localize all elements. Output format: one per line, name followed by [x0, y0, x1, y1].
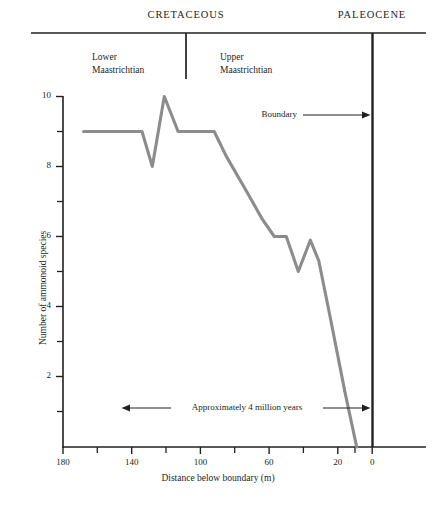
boundary-annotation-label: Boundary: [262, 109, 298, 119]
x-tick-label-100: 100: [194, 457, 208, 467]
stage-label-upper-line1: Upper: [220, 51, 315, 64]
y-tick-label-10: 10: [42, 90, 51, 100]
stage-label-lower-line1: Lower: [92, 51, 187, 64]
duration-annotation-label: Approximately 4 million years: [192, 402, 303, 412]
y-axis-minor-ticks: [57, 132, 63, 412]
x-axis-major-ticks: [63, 447, 372, 454]
y-axis-major-ticks: [56, 97, 63, 377]
x-tick-label-180: 180: [56, 457, 70, 467]
x-axis-minor-ticks: [97, 447, 355, 453]
x-tick-label-60: 60: [265, 457, 274, 467]
stage-label-upper-line2: Maastrichtian: [220, 64, 330, 77]
x-tick-label-140: 140: [125, 457, 139, 467]
stage-label-lower-line2: Maastrichtian: [92, 64, 202, 77]
y-tick-label-2: 2: [47, 370, 52, 380]
era-label-paleocene: PALEOCENE: [338, 9, 406, 20]
x-axis-title: Distance below boundary (m): [161, 473, 274, 483]
x-tick-label-0: 0: [370, 457, 375, 467]
y-tick-label-8: 8: [47, 160, 52, 170]
y-axis-title: Number of ammonoid species: [38, 231, 48, 345]
x-tick-label-20: 20: [333, 457, 342, 467]
ammonoid-species-curve: [84, 97, 357, 448]
boundary-annotation-arrow: [303, 112, 371, 119]
figure-root: CRETACEOUS PALEOCENE Lower Maastrichtian…: [0, 0, 439, 505]
era-label-cretaceous: CRETACEOUS: [148, 9, 225, 20]
duration-left-arrow: [122, 405, 172, 412]
